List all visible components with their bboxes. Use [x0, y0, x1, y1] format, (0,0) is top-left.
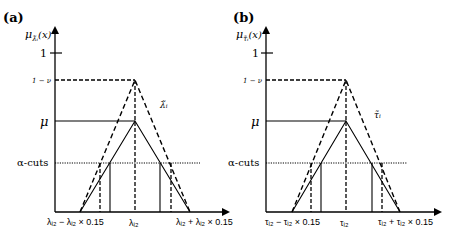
x-tick-center-b: τᵢ₂ — [340, 218, 349, 228]
tick-one-label-a: 1 — [40, 47, 47, 60]
panel-b: (b) μτ̃ᵢ(x) 1 1 − ν μ α-cuts τ̃ᵢ τᵢ₂ − τ… — [228, 10, 440, 228]
y-axis-label-a: μλ̃ᵢ(x) — [25, 28, 52, 43]
alpha-cuts-label-a: α-cuts — [17, 157, 48, 168]
mu-label-b: μ — [251, 114, 259, 129]
mu-label-a: μ — [40, 114, 48, 129]
x-tick-right-b: τᵢ₂ + τᵢ₂ × 0.15 — [378, 217, 433, 227]
panel-b-label: (b) — [233, 10, 254, 25]
panel-a-label: (a) — [3, 10, 24, 25]
one-minus-nu-label-a: 1 − ν — [32, 77, 52, 85]
curve-label-a: λ̃ᵢ — [159, 100, 168, 110]
panel-a: (a) μλ̃ᵢ(x) 1 1 − ν μ α-cuts λ̃ᵢ — [3, 10, 233, 228]
curve-label-b: τ̃ᵢ — [374, 110, 381, 120]
alpha-cuts-label-b: α-cuts — [228, 157, 259, 168]
x-tick-right-a: λᵢ₂ + λᵢ₂ × 0.15 — [176, 217, 233, 227]
tick-one-label-b: 1 — [252, 47, 259, 60]
x-tick-left-a: λᵢ₂ − λᵢ₂ × 0.15 — [47, 217, 104, 227]
x-tick-left-b: τᵢ₂ − τᵢ₂ × 0.15 — [265, 217, 320, 227]
y-axis-label-b: μτ̃ᵢ(x) — [236, 28, 262, 43]
one-minus-nu-label-b: 1 − ν — [243, 77, 263, 85]
x-tick-center-a: λᵢ₂ — [129, 218, 139, 228]
